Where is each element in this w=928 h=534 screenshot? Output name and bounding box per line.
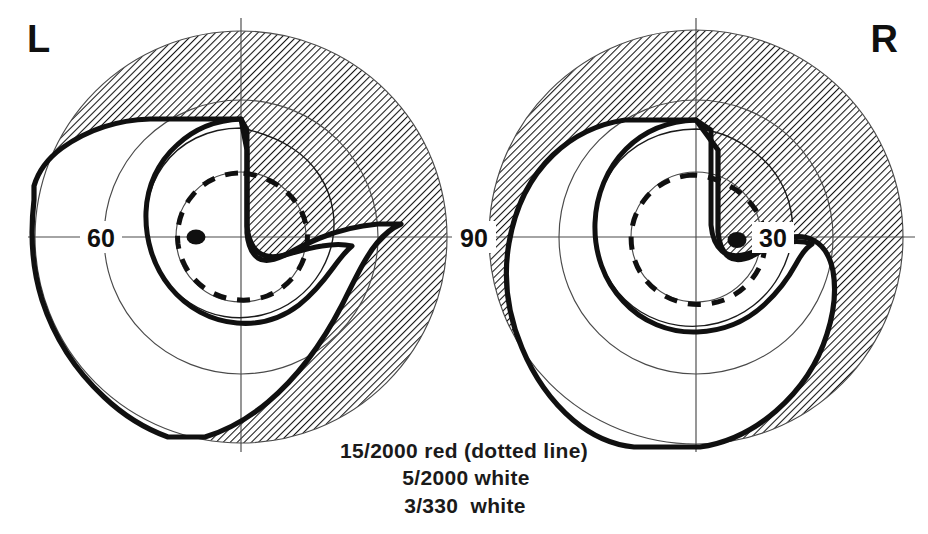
right-blind-spot-marker — [728, 232, 747, 248]
center-tick-90-label: 90 — [460, 224, 488, 252]
left-eye-label: L — [27, 18, 50, 60]
left-eye-chart: 60 — [28, 18, 458, 452]
center-tick-90: 90 — [452, 221, 496, 253]
legend-line-red: 15/2000 red (dotted line) — [0, 437, 928, 464]
legend-line-5-2000: 5/2000 white — [0, 464, 928, 491]
right-tick-30: 30 — [752, 222, 794, 253]
right-eye-label: R — [871, 18, 898, 60]
right-eye-chart: 30 — [482, 18, 915, 452]
chart-legend-caption: 15/2000 red (dotted line) 5/2000 white 3… — [0, 437, 928, 519]
left-blind-spot-marker — [187, 230, 206, 245]
legend-line-3-330: 3/330 white — [0, 492, 928, 519]
left-tick-60-label: 60 — [87, 224, 115, 252]
left-tick-60: 60 — [80, 221, 122, 253]
right-tick-30-label: 30 — [759, 224, 787, 252]
